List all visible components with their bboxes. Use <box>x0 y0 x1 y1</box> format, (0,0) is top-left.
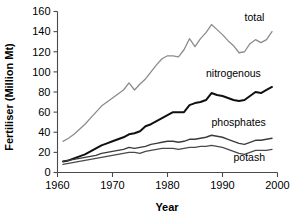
y-tick-label: 160 <box>32 5 50 17</box>
x-tick-label: 1970 <box>100 179 124 191</box>
data-series <box>63 25 272 165</box>
x-axis-title: Year <box>155 201 179 213</box>
x-tick-label: 1990 <box>210 179 234 191</box>
y-tick-label: 20 <box>38 146 50 158</box>
y-tick-label: 60 <box>38 106 50 118</box>
fertiliser-line-chart: 0204060801001201401601960197019801990200… <box>0 0 291 217</box>
series-label-nitrogenous: nitrogenous <box>206 67 261 79</box>
x-tick-label: 1960 <box>45 179 69 191</box>
x-tick-label: 2000 <box>265 179 289 191</box>
chart-canvas: 0204060801001201401601960197019801990200… <box>0 0 291 217</box>
x-tick-label: 1980 <box>155 179 179 191</box>
series-label-total: total <box>245 11 265 23</box>
y-tick-label: 120 <box>32 46 50 58</box>
y-tick-label: 100 <box>32 66 50 78</box>
y-axis-title: Fertiliser (Million Mt) <box>3 43 15 151</box>
series-label-potash: potash <box>234 151 266 163</box>
y-tick-label: 40 <box>38 126 50 138</box>
series-label-phosphates: phosphates <box>212 116 266 128</box>
y-tick-label: 80 <box>38 86 50 98</box>
y-tick-label: 140 <box>32 25 50 37</box>
y-tick-label: 0 <box>44 166 50 178</box>
